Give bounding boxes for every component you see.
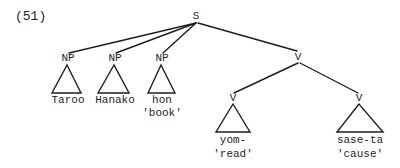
syntax-tree-diagram: (51) S NP NP NP Taroo Hanako hon 'book' …: [0, 0, 400, 168]
node-np-2: NP: [108, 53, 121, 64]
word-taroo: Taroo: [51, 95, 84, 106]
branch-s-np1: [69, 23, 196, 53]
node-np-3: NP: [155, 53, 168, 64]
word-hon: hon: [152, 95, 172, 106]
node-s: S: [193, 11, 200, 22]
triangle-np2: [98, 65, 129, 93]
triangle-v-right: [337, 104, 383, 132]
gloss-read: 'read': [213, 149, 253, 160]
node-v: V: [295, 52, 302, 63]
branch-v-vright: [300, 63, 358, 93]
word-yom: yom-: [220, 135, 246, 146]
triangle-np1: [52, 65, 81, 93]
branch-s-np2: [116, 23, 196, 53]
node-np-1: NP: [61, 53, 74, 64]
node-v-right: V: [356, 93, 363, 104]
branch-v-vleft: [234, 63, 298, 93]
gloss-cause: 'cause': [337, 149, 383, 160]
word-sase-ta: sase-ta: [337, 135, 383, 146]
triangle-np3: [148, 65, 175, 93]
branch-s-v: [198, 23, 297, 51]
node-v-left: V: [230, 93, 237, 104]
gloss-book: 'book': [142, 108, 182, 119]
example-number: (51): [15, 10, 46, 23]
triangle-v-left: [216, 104, 250, 132]
word-hanako: Hanako: [95, 95, 135, 106]
